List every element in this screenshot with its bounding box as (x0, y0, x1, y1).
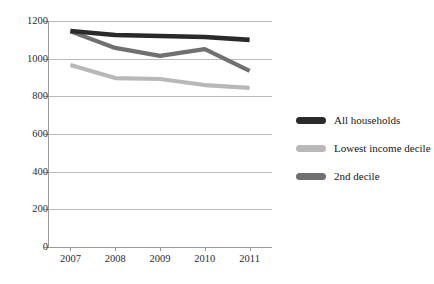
y-tick-label-600: 600 (8, 129, 48, 140)
x-tick-label-2009: 2009 (150, 253, 171, 264)
y-tick-label-0: 0 (8, 242, 48, 253)
y-tick-label-1200: 1200 (8, 16, 48, 27)
x-tick-mark-2008 (115, 247, 116, 251)
series-line-all-households (70, 31, 249, 40)
series-line-lowest-income-decile (70, 65, 249, 88)
legend-swatch-2nd-decile (296, 173, 326, 180)
legend-swatch-all-households (296, 117, 326, 124)
legend-label-all-households: All households (334, 115, 400, 126)
chart-legend: All households Lowest income decile 2nd … (296, 108, 434, 192)
y-tick-label-200: 200 (8, 204, 48, 215)
x-tick-label-2011: 2011 (239, 253, 260, 264)
x-tick-label-2007: 2007 (60, 253, 81, 264)
x-tick-mark-2007 (70, 247, 71, 251)
series-layer (48, 21, 272, 247)
legend-item-2nd-decile[interactable]: 2nd decile (296, 164, 434, 188)
legend-swatch-lowest-income-decile (296, 145, 326, 152)
x-tick-mark-2009 (160, 247, 161, 251)
y-tick-label-1000: 1000 (8, 53, 48, 64)
legend-label-2nd-decile: 2nd decile (334, 171, 380, 182)
y-tick-label-800: 800 (8, 91, 48, 102)
x-tick-label-2008: 2008 (105, 253, 126, 264)
plot-region: 1200 1000 800 600 400 200 0 2007 2008 20… (0, 0, 290, 284)
legend-item-all-households[interactable]: All households (296, 108, 434, 132)
x-tick-label-2010: 2010 (194, 253, 215, 264)
line-chart: 1200 1000 800 600 400 200 0 2007 2008 20… (0, 0, 434, 284)
x-tick-mark-2011 (250, 247, 251, 251)
legend-label-lowest-income-decile: Lowest income decile (334, 143, 431, 154)
legend-item-lowest-income-decile[interactable]: Lowest income decile (296, 136, 434, 160)
x-tick-mark-2010 (205, 247, 206, 251)
y-axis-ticks: 1200 1000 800 600 400 200 0 (0, 0, 48, 284)
y-tick-label-400: 400 (8, 166, 48, 177)
